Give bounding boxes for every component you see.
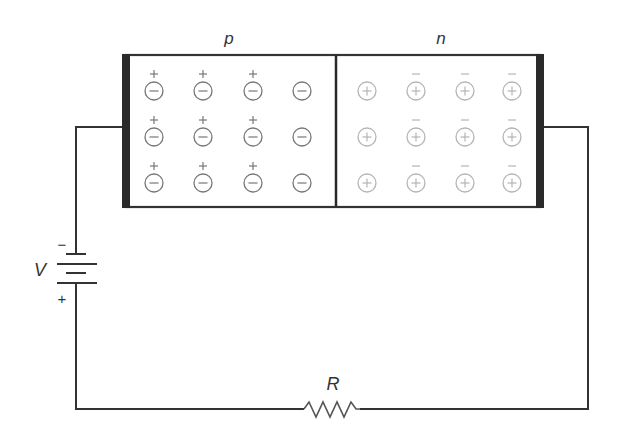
- left-bottom-wire: [76, 283, 304, 409]
- resistor-label: R: [327, 374, 340, 394]
- right-metal-contact: [536, 54, 544, 208]
- p-region-label: p: [223, 29, 233, 48]
- battery-negative-sign: −: [58, 236, 67, 253]
- n-region-label: n: [436, 29, 445, 48]
- left-metal-contact: [122, 54, 130, 208]
- block-outline: [126, 55, 540, 207]
- resistor-symbol: [304, 402, 360, 417]
- semiconductor-block: [122, 54, 544, 208]
- battery-positive-sign: +: [58, 290, 67, 307]
- voltage-label: V: [34, 260, 48, 280]
- pn-junction-circuit-diagram: p n − + V R: [0, 0, 622, 441]
- left-wire: [76, 127, 122, 254]
- battery-symbol: [57, 254, 97, 283]
